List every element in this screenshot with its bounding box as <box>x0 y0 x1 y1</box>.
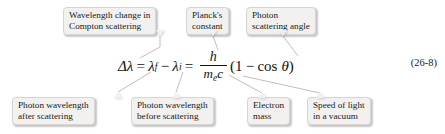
equation-equals-2: = <box>182 58 197 75</box>
equation-minus-2: − <box>243 58 258 75</box>
equation-denominator-m: m <box>204 66 213 81</box>
equation-number: (26-8) <box>411 57 437 68</box>
equation-fraction-denominator: mec <box>200 66 228 83</box>
equation-one: 1 <box>235 58 243 75</box>
callout-photon-wavelength-after-line1: Photon wavelength <box>18 100 89 111</box>
connector-plancks-constant <box>213 36 218 50</box>
equation-fraction-numerator: h <box>206 50 221 65</box>
callout-photon-scattering-angle-line1: Photon <box>252 10 310 21</box>
equation-cos: cos <box>257 58 277 75</box>
callout-speed-of-light: Speed of light in a vacuum <box>307 97 371 125</box>
callout-electron-mass-line1: Electron <box>253 100 284 111</box>
callout-plancks-constant-line1: Planck's <box>192 10 223 21</box>
callout-electron-mass: Electron mass <box>247 97 290 125</box>
compton-equation-figure: Wavelength change in Compton scattering … <box>0 0 445 134</box>
callout-photon-wavelength-before-line1: Photon wavelength <box>137 100 208 111</box>
callout-photon-wavelength-before-line2: before scattering <box>137 111 208 122</box>
callout-electron-mass-line2: mass <box>253 111 284 122</box>
callout-tail-photon-wavelength-after <box>114 92 122 98</box>
callout-plancks-constant: Planck's constant <box>186 7 229 35</box>
equation-denominator-c: c <box>217 66 223 81</box>
callout-wavelength-change-line2: Compton scattering <box>69 21 150 32</box>
equation-delta-lambda: Δλ <box>118 58 133 75</box>
equation-theta: θ <box>277 58 288 75</box>
callout-wavelength-change: Wavelength change in Compton scattering <box>63 7 156 35</box>
callout-tail-speed-of-light <box>316 92 324 98</box>
callout-speed-of-light-line1: Speed of light <box>313 100 365 111</box>
callout-photon-wavelength-after: Photon wavelength after scattering <box>12 97 95 125</box>
equation: Δλ = λf − λi = h mec ( 1 − cos θ ) <box>118 50 294 83</box>
equation-paren-close: ) <box>289 58 294 75</box>
callout-tail-photon-wavelength-before <box>172 92 180 98</box>
callout-wavelength-change-line1: Wavelength change in <box>69 10 150 21</box>
callout-photon-wavelength-after-line2: after scattering <box>18 111 89 122</box>
callout-plancks-constant-line2: constant <box>192 21 223 32</box>
equation-equals-1: = <box>133 58 148 75</box>
callout-photon-wavelength-before: Photon wavelength before scattering <box>131 97 214 125</box>
equation-minus-1: − <box>157 58 172 75</box>
callout-tail-electron-mass <box>258 92 266 98</box>
callout-tail-photon-scattering-angle <box>279 30 287 36</box>
equation-fraction: h mec <box>200 50 228 83</box>
callout-tail-wavelength-change <box>156 30 164 36</box>
callout-speed-of-light-line2: in a vacuum <box>313 111 365 122</box>
callout-tail-plancks-constant <box>209 30 217 36</box>
